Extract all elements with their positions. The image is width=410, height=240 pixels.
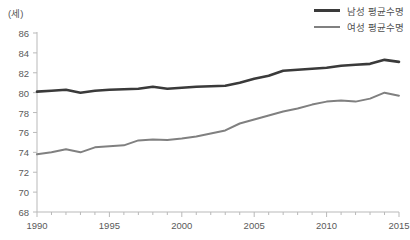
series-line-female xyxy=(37,93,399,155)
y-axis-tick-label: 72 xyxy=(5,167,29,178)
y-axis-tick-label: 78 xyxy=(5,107,29,118)
x-axis-tick-label: 2000 xyxy=(162,220,202,231)
y-axis-tick-label: 80 xyxy=(5,87,29,98)
y-axis-tick-label: 82 xyxy=(5,67,29,78)
x-axis-tick-label: 2010 xyxy=(307,220,347,231)
x-axis-tick-label: 2005 xyxy=(234,220,274,231)
y-axis-tick-label: 84 xyxy=(5,47,29,58)
x-axis-tick-label: 1995 xyxy=(89,220,129,231)
plot-area xyxy=(0,0,410,240)
y-axis-tick-label: 70 xyxy=(5,187,29,198)
x-axis-tick-label: 2015 xyxy=(379,220,410,231)
y-axis-tick-label: 74 xyxy=(5,147,29,158)
y-axis-tick-label: 76 xyxy=(5,127,29,138)
life-expectancy-line-chart: (세) 남성 평균수명 여성 평균수명 68707274767880828486… xyxy=(0,0,410,240)
y-axis-tick-label: 68 xyxy=(5,207,29,218)
x-axis-tick-label: 1990 xyxy=(17,220,57,231)
series-line-male xyxy=(37,60,399,93)
y-axis-tick-label: 86 xyxy=(5,28,29,39)
